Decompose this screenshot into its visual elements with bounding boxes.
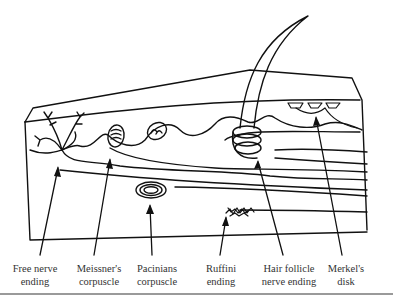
skin-block-outline — [25, 70, 367, 240]
label-meissners-corpuscle: Meissner's corpuscle — [70, 262, 128, 288]
label-hair-follicle-nerve-ending: Hair follicle nerve ending — [258, 262, 320, 288]
skin-cross-section-diagram — [0, 0, 393, 297]
bottom-rule — [0, 293, 393, 295]
pointer-merkels-disk — [316, 118, 342, 255]
label-ruffini-ending: Ruffini ending — [196, 262, 246, 288]
hair-follicle-drawing — [232, 16, 308, 158]
pointer-free-nerve-ending — [40, 168, 58, 255]
label-free-nerve-ending: Free nerve ending — [6, 262, 64, 288]
label-merkels-disk: Merkel's disk — [324, 262, 368, 288]
label-pacinians-corpuscle: Pacinians corpuscle — [128, 262, 186, 288]
ruffini-ending-drawing — [226, 208, 254, 216]
pacinian-corpuscle-drawing — [136, 182, 166, 198]
